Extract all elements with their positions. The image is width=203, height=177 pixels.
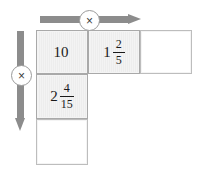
grid-cell-r1c2[interactable]: 1 2 5 xyxy=(88,30,140,74)
cell-value-r2c1: 2 4 15 xyxy=(50,82,74,110)
cell-fraction-r2c1: 4 15 xyxy=(60,82,74,110)
cell-denominator-r1c2: 5 xyxy=(115,53,123,67)
cell-value-r1c2: 1 2 5 xyxy=(103,38,125,66)
cell-denominator-r2c1: 15 xyxy=(60,97,74,111)
cell-numerator-r2c1: 4 xyxy=(63,82,71,96)
grid-cell-r1c3-answer[interactable] xyxy=(140,30,192,74)
grid-cell-r1c1[interactable]: 10 xyxy=(36,30,88,74)
vertical-arrow-head xyxy=(15,118,25,131)
multiply-icon-horizontal: × xyxy=(79,10,100,31)
cell-whole-r2c1: 2 xyxy=(50,89,58,104)
cell-fraction-r1c2: 2 5 xyxy=(113,38,125,66)
grid-cell-r3c1-answer[interactable] xyxy=(36,119,88,165)
horizontal-arrow-head xyxy=(128,14,141,24)
cell-whole-r1c2: 1 xyxy=(103,45,111,60)
multiply-icon-vertical: × xyxy=(11,65,32,86)
grid-cell-r2c1[interactable]: 2 4 15 xyxy=(36,74,88,119)
cell-numerator-r1c2: 2 xyxy=(115,38,123,52)
cell-value-r1c1: 10 xyxy=(54,45,71,60)
cell-whole-r1c1: 10 xyxy=(54,45,69,60)
diagram-canvas: × × 10 1 2 5 2 4 15 xyxy=(0,0,203,177)
